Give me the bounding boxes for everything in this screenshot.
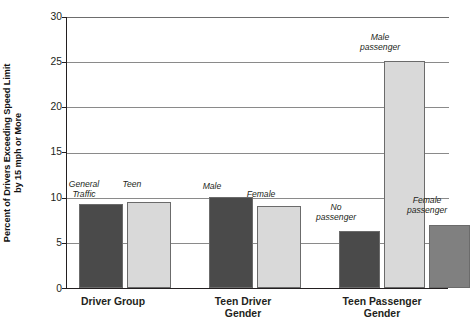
bar-label-line-1: Teen <box>106 180 158 190</box>
group-label-line-1: Driver Group <box>58 296 168 308</box>
bar-label-general-traffic: General Traffic <box>56 180 112 199</box>
bar-teen <box>127 202 171 288</box>
bar-label-male-passenger: Male passenger <box>352 33 408 52</box>
group-label-line-2: Gender <box>188 308 298 320</box>
x-axis-group-label-driver-group: Driver Group <box>58 296 168 308</box>
y-tick-label-15: 15 <box>30 147 62 157</box>
y-axis-title-line-2: by 15 mph or More <box>13 64 24 242</box>
bar-teen-driver-female <box>257 206 301 288</box>
bar-label-no-passenger: No passenger <box>310 203 362 222</box>
bar-label-teen-driver-male: Male <box>186 182 238 192</box>
y-tick-label-20: 20 <box>30 102 62 112</box>
bar-female-passenger <box>429 225 470 288</box>
bar-label-teen-driver-female: Female <box>234 190 288 200</box>
x-axis-group-label-teen-driver-gender: Teen Driver Gender <box>188 296 298 320</box>
bar-label-line-2: Traffic <box>56 190 112 200</box>
y-tick-label-0: 0 <box>30 284 62 294</box>
gridline-30 <box>67 17 449 18</box>
bar-teen-driver-male <box>209 197 253 288</box>
x-axis-group-label-teen-passenger-gender: Teen Passenger Gender <box>320 296 444 320</box>
y-tick-label-5: 5 <box>30 238 62 248</box>
bar-general-traffic <box>79 204 123 288</box>
bar-label-line-1: Female <box>234 190 288 200</box>
bar-label-line-2: passenger <box>398 206 456 216</box>
y-tick-label-30: 30 <box>30 12 62 22</box>
group-label-line-2: Gender <box>320 308 444 320</box>
group-label-line-1: Teen Driver <box>188 296 298 308</box>
bar-no-passenger <box>339 231 380 288</box>
y-tick-label-25: 25 <box>30 57 62 67</box>
bar-label-teen: Teen <box>106 180 158 190</box>
group-label-line-1: Teen Passenger <box>320 296 444 308</box>
bar-label-line-1: Male <box>186 182 238 192</box>
y-axis-title: Percent of Drivers Exceeding Speed Limit… <box>0 17 26 289</box>
plot-area <box>66 17 448 289</box>
y-axis-title-line-1: Percent of Drivers Exceeding Speed Limit <box>2 64 13 242</box>
bar-label-line-2: passenger <box>310 213 362 223</box>
bar-label-female-passenger: Female passenger <box>398 196 456 215</box>
bar-label-line-2: passenger <box>352 43 408 53</box>
bar-male-passenger <box>384 61 425 288</box>
